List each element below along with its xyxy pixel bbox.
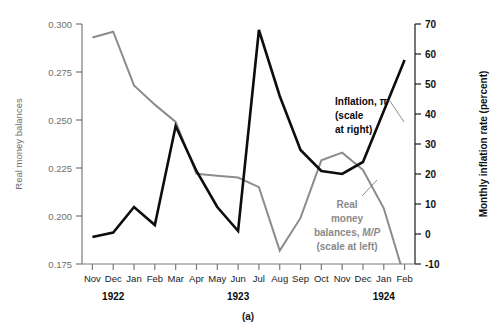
left-tick-label: 0.225 xyxy=(48,163,72,174)
x-tick-label: Feb xyxy=(147,273,163,284)
x-tick-label: Sep xyxy=(292,273,309,284)
annotation-mp-line1: Real xyxy=(336,199,357,210)
x-year-label: 1922 xyxy=(102,291,125,302)
left-tick-label: 0.250 xyxy=(48,115,72,126)
x-year-label: 1924 xyxy=(373,291,396,302)
annotation-mp-line2: money xyxy=(331,213,364,224)
right-axis-tick-labels: -10010203040506070 xyxy=(425,19,440,270)
annotation-mp-line3-text: balances, xyxy=(314,227,362,238)
right-tick-label: -10 xyxy=(425,259,440,270)
left-axis-title: Real money balances xyxy=(13,98,24,190)
x-axis-tick-labels: NovDecJanFebMarAprMayJunJulAugSepOctNovD… xyxy=(84,273,413,284)
x-tick-label: Feb xyxy=(396,273,412,284)
hyperinflation-line-chart: 0.1750.2000.2250.2500.2750.300 -10010203… xyxy=(0,0,497,334)
right-tick-label: 20 xyxy=(425,169,437,180)
right-tick-label: 0 xyxy=(425,229,431,240)
x-tick-label: Nov xyxy=(84,273,101,284)
x-tick-label: Nov xyxy=(334,273,351,284)
x-tick-label: Dec xyxy=(105,273,122,284)
right-tick-label: 70 xyxy=(425,19,437,30)
right-tick-label: 30 xyxy=(425,139,437,150)
x-tick-label: Aug xyxy=(271,273,288,284)
figure-container: 0.1750.2000.2250.2500.2750.300 -10010203… xyxy=(0,0,497,334)
x-tick-label: Mar xyxy=(167,273,183,284)
x-tick-label: Oct xyxy=(314,273,329,284)
right-tick-label: 50 xyxy=(425,79,437,90)
right-tick-label: 40 xyxy=(425,109,437,120)
x-year-label: 1923 xyxy=(227,291,250,302)
x-tick-label: Jul xyxy=(253,273,265,284)
x-tick-label: Apr xyxy=(189,273,204,284)
left-axis-tick-labels: 0.1750.2000.2250.2500.2750.300 xyxy=(48,19,72,270)
x-tick-label: Jun xyxy=(230,273,245,284)
annotation-inflation-line1: Inflation, π xyxy=(335,96,387,107)
x-tick-label: Dec xyxy=(355,273,372,284)
leader-line-inflation xyxy=(390,101,404,122)
x-axis-ticks xyxy=(92,264,404,270)
left-tick-label: 0.300 xyxy=(48,19,72,30)
left-tick-label: 0.175 xyxy=(48,259,72,270)
annotation-inflation-line3: at right) xyxy=(335,124,372,135)
right-tick-label: 60 xyxy=(425,49,437,60)
right-tick-label: 10 xyxy=(425,199,437,210)
annotation-mp-line3: balances, M/P xyxy=(314,227,380,238)
left-axis-ticks xyxy=(76,24,82,264)
x-axis-year-labels: 192219231924 xyxy=(102,291,395,302)
right-axis-ticks xyxy=(415,24,421,264)
x-tick-label: Jan xyxy=(376,273,391,284)
x-tick-label: May xyxy=(208,273,226,284)
left-tick-label: 0.200 xyxy=(48,211,72,222)
x-tick-label: Jan xyxy=(126,273,141,284)
annotation-inflation-line2: (scale xyxy=(335,110,364,121)
annotation-mp-line3-symbol: M/P xyxy=(362,227,380,238)
left-tick-label: 0.275 xyxy=(48,67,72,78)
annotation-mp-line4: (scale at left) xyxy=(316,241,377,252)
right-axis-title: Monthly inflation rate (percent) xyxy=(478,71,489,218)
figure-caption: (a) xyxy=(242,311,254,322)
